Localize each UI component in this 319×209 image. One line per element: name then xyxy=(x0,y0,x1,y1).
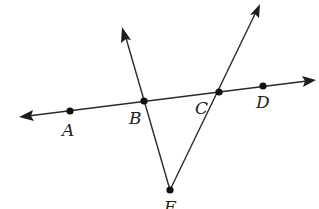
label-f: F xyxy=(163,197,177,209)
label-c: C xyxy=(195,98,208,118)
label-b: B xyxy=(128,108,142,128)
point-b xyxy=(140,97,147,104)
point-a xyxy=(66,107,73,114)
point-f xyxy=(166,186,173,193)
geometry-diagram: A B C D F xyxy=(0,0,319,209)
arrowhead-fb-icon xyxy=(121,27,131,43)
point-c xyxy=(215,88,222,95)
arrowhead-fc-icon xyxy=(250,4,260,18)
point-d xyxy=(259,82,266,89)
label-d: D xyxy=(255,92,270,112)
label-a: A xyxy=(60,120,74,140)
line-ad xyxy=(19,76,316,121)
